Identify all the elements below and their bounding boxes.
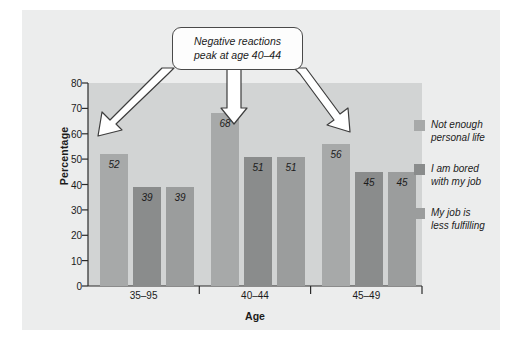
bar-40-44-bored-with-my-job: 51: [244, 157, 272, 286]
legend-label-line-2: with my job: [431, 176, 481, 187]
y-axis-tick-labels: 80 70 60 50 40 30 20 10 0: [58, 83, 82, 286]
bar-40-44-not-enough-personal-life: 68: [211, 113, 239, 286]
x-axis-tick-labels: 35–95 40–44 45–49: [88, 290, 422, 306]
legend-swatch-icon: [414, 120, 425, 131]
bar-40-44-less-fulfilling: 51: [277, 157, 305, 286]
y-tick-0: 0: [60, 281, 82, 292]
bar-value: 56: [322, 149, 350, 160]
y-tick-70: 70: [60, 103, 82, 114]
y-tick-40: 40: [60, 179, 82, 190]
bar-45-49-less-fulfilling: 45: [388, 172, 416, 286]
bar-value: 39: [133, 192, 161, 203]
legend-label-line-2: less fulfilling: [431, 220, 485, 231]
bar-value: 45: [355, 177, 383, 188]
legend-item-less-fulfilling: My job is less fulfilling: [414, 206, 500, 232]
x-tick-40-44: 40–44: [241, 290, 269, 301]
legend-item-label: Not enough personal life: [431, 118, 485, 144]
bar-35-95-bored-with-my-job: 39: [133, 187, 161, 286]
y-tick-20: 20: [60, 230, 82, 241]
bar-35-95-less-fulfilling: 39: [166, 187, 194, 286]
bar-value: 51: [277, 162, 305, 173]
legend-label-line-1: I am bored: [431, 163, 479, 174]
legend-item-not-enough-personal-life: Not enough personal life: [414, 118, 500, 144]
y-tick-80: 80: [60, 78, 82, 89]
legend-label-line-2: personal life: [431, 132, 485, 143]
chart-figure-panel: Percentage 80 70 60 50 40 30 20 10 0: [22, 10, 500, 330]
callout-annotation-text: Negative reactions peak at age 40–44: [190, 35, 285, 63]
x-tick-45-49: 45–49: [352, 290, 380, 301]
y-tick-60: 60: [60, 128, 82, 139]
legend-item-bored-with-my-job: I am bored with my job: [414, 162, 500, 188]
legend-label-line-1: My job is: [431, 207, 470, 218]
legend-label-line-1: Not enough: [431, 119, 483, 130]
y-tick-30: 30: [60, 204, 82, 215]
legend-swatch-icon: [414, 164, 425, 175]
y-tick-10: 10: [60, 255, 82, 266]
bar-value: 52: [100, 159, 128, 170]
bar-value: 39: [166, 192, 194, 203]
x-tick-35-95: 35–95: [130, 290, 158, 301]
callout-annotation-box: Negative reactions peak at age 40–44: [172, 27, 303, 70]
callout-line-2: peak at age 40–44: [194, 49, 281, 61]
bar-35-95-not-enough-personal-life: 52: [100, 154, 128, 286]
bar-45-49-bored-with-my-job: 45: [355, 172, 383, 286]
bar-45-49-not-enough-personal-life: 56: [322, 144, 350, 286]
callout-line-1: Negative reactions: [194, 35, 281, 47]
legend-item-label: I am bored with my job: [431, 162, 481, 188]
bar-value: 45: [388, 177, 416, 188]
bars-layer: 52 39 39 68 51 51 56 45: [88, 83, 422, 286]
x-axis-title: Age: [88, 310, 422, 322]
bar-value: 68: [211, 118, 239, 129]
bar-value: 51: [244, 162, 272, 173]
legend-swatch-icon: [414, 208, 425, 219]
y-tick-50: 50: [60, 154, 82, 165]
chart-legend: Not enough personal life I am bored with…: [414, 118, 500, 250]
legend-item-label: My job is less fulfilling: [431, 206, 485, 232]
